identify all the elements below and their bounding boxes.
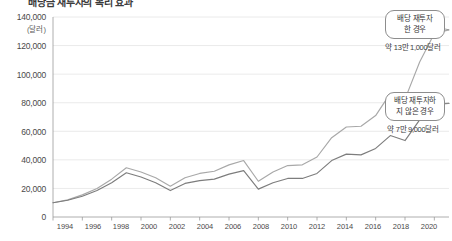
annotation-reinvested-value: 약 13만 1,000달러	[376, 41, 450, 52]
annotation-not-reinvested-value: 약 7만 9,000달러	[376, 123, 450, 134]
x-axis-tick-marks	[53, 217, 434, 221]
chart-container: 배당금 재투자의 복리 효과 140,000 (달러) 120,000 100,…	[0, 0, 452, 241]
annotation-reinvested-line-2: 한 경우	[390, 25, 440, 36]
annotation-not-reinvested-line-1: 배당 재투자하	[390, 96, 440, 107]
annotation-reinvested-line-1: 배당 재투자	[390, 14, 440, 25]
plot-area	[0, 0, 452, 241]
annotation-callout-not-reinvested: 배당 재투자하 지 않은 경우	[385, 92, 445, 121]
annotation-not-reinvested-line-2: 지 않은 경우	[390, 107, 440, 118]
annotation-callout-reinvested: 배당 재투자 한 경우	[385, 10, 445, 39]
